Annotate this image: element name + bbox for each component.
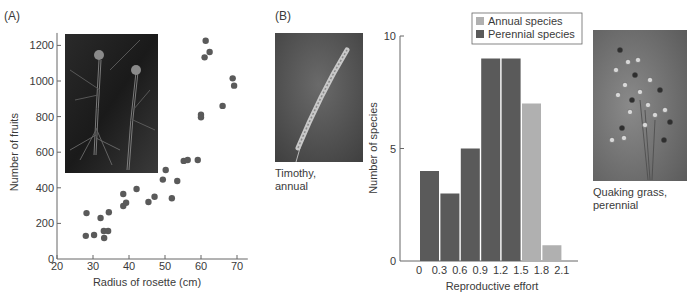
quaking-caption-line1: Quaking grass,: [593, 186, 667, 198]
x-tick-label: 30: [87, 260, 99, 272]
histogram-bar: [420, 171, 439, 261]
data-point: [169, 195, 175, 201]
y-tick-label: 10: [384, 30, 396, 42]
y-tick-label: 1200: [30, 39, 54, 51]
legend-entry: Annual species: [488, 15, 563, 27]
data-point: [229, 75, 235, 81]
bloom-dot: [615, 92, 620, 97]
data-point: [123, 200, 129, 206]
histogram-bar: [481, 59, 500, 262]
data-point: [184, 157, 190, 163]
panel-a-label: (A): [4, 9, 20, 23]
bloom-dot: [622, 82, 627, 87]
quaking-caption-line2: perennial: [593, 199, 638, 211]
bloom-dot: [657, 87, 662, 92]
data-point: [201, 54, 207, 60]
data-point: [120, 191, 126, 197]
data-point: [101, 235, 107, 241]
bloom-dot: [661, 137, 666, 142]
bloom-dot: [667, 119, 672, 124]
legend-swatch: [476, 30, 484, 38]
y-tick-label: 800: [36, 111, 54, 123]
histogram-bar: [440, 194, 459, 262]
histogram: 051000.30.60.91.21.51.82.1Reproductive e…: [367, 13, 582, 292]
data-point: [91, 232, 97, 238]
x-tick-label: 0.6: [452, 264, 467, 276]
bloom-dot: [621, 135, 626, 140]
x-tick-label: 1.2: [493, 264, 508, 276]
data-point: [106, 209, 112, 215]
bloom-dot: [652, 112, 657, 117]
data-point: [83, 233, 89, 239]
data-point: [195, 157, 201, 163]
data-point: [83, 210, 89, 216]
data-point: [151, 194, 157, 200]
y-tick-label: 1000: [30, 75, 54, 87]
y-axis-label: Number of fruits: [8, 113, 20, 192]
data-point: [198, 114, 204, 120]
bloom-dot: [647, 77, 652, 82]
data-point: [105, 228, 111, 234]
data-point: [163, 167, 169, 173]
bloom-dot: [662, 107, 667, 112]
y-axis-label: Number of species: [367, 102, 379, 194]
panel-b-label: (B): [275, 9, 291, 23]
histogram-bar: [461, 149, 480, 262]
bloom-dot: [629, 97, 634, 102]
y-tick-label: 0: [390, 255, 396, 267]
data-point: [202, 38, 208, 44]
y-tick-label: 600: [36, 146, 54, 158]
data-point: [231, 82, 237, 88]
y-tick-label: 200: [36, 217, 54, 229]
bloom-dot: [617, 47, 622, 52]
figure-canvas: (A) (B) 20304050607002004006008001000120…: [0, 0, 697, 300]
bloom-dot: [637, 89, 642, 94]
bloom-dot: [619, 125, 624, 130]
histogram-bar: [542, 245, 561, 261]
rosette-photo: [65, 34, 158, 173]
x-tick-label: 0.9: [473, 264, 488, 276]
x-axis-label: Radius of rosette (cm): [93, 276, 201, 288]
data-point: [219, 103, 225, 109]
timothy-caption-line1: Timothy,: [275, 167, 316, 179]
bloom-dot: [635, 57, 640, 62]
y-tick-label: 0: [48, 253, 54, 265]
legend-entry: Perennial species: [488, 28, 575, 40]
x-tick-label: 0.3: [432, 264, 447, 276]
histogram-bar: [522, 104, 541, 262]
bloom-dot: [645, 102, 650, 107]
y-tick-label: 5: [390, 143, 396, 155]
x-tick-label: 1.5: [513, 264, 528, 276]
quaking-grass-photo: [593, 30, 687, 181]
bloom-dot: [642, 122, 647, 127]
x-tick-label: 2.1: [554, 264, 569, 276]
bloom-dot: [627, 109, 632, 114]
x-axis-label: Reproductive effort: [446, 280, 539, 292]
data-point: [97, 215, 103, 221]
x-tick-label: 50: [159, 260, 171, 272]
bloom-dot: [613, 67, 618, 72]
y-tick-label: 400: [36, 182, 54, 194]
timothy-caption-line2: annual: [275, 180, 308, 192]
bloom-dot: [632, 72, 637, 77]
bloom-dot: [625, 59, 630, 64]
data-point: [206, 49, 212, 55]
data-point: [145, 199, 151, 205]
x-tick-label: 0: [416, 264, 422, 276]
bloom-dot: [609, 137, 614, 142]
legend-swatch: [476, 17, 484, 25]
timothy-photo: [275, 33, 363, 162]
x-tick-label: 70: [231, 260, 243, 272]
data-point: [133, 186, 139, 192]
histogram-bar: [502, 59, 521, 262]
x-tick-label: 40: [123, 260, 135, 272]
x-tick-label: 1.8: [534, 264, 549, 276]
x-tick-label: 60: [195, 260, 207, 272]
data-point: [174, 178, 180, 184]
data-point: [160, 176, 166, 182]
legend: Annual speciesPerennial species: [472, 13, 582, 44]
